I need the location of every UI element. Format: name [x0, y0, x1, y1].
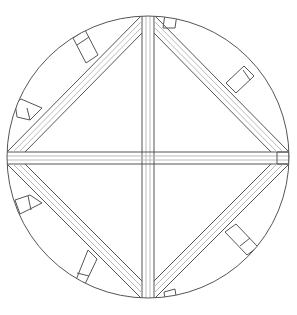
diamond-beam-sw [7, 164, 142, 299]
frame-diagram [0, 0, 297, 315]
horizontal-beam [0, 152, 297, 164]
vertical-beam [142, 0, 154, 315]
diamond-beam-se [154, 164, 289, 299]
outer-circle [7, 16, 289, 298]
